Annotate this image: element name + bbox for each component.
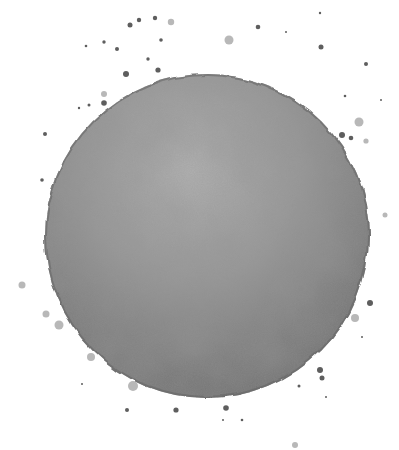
paint-circle xyxy=(45,74,369,398)
watercolor-circle-artwork xyxy=(0,0,399,450)
